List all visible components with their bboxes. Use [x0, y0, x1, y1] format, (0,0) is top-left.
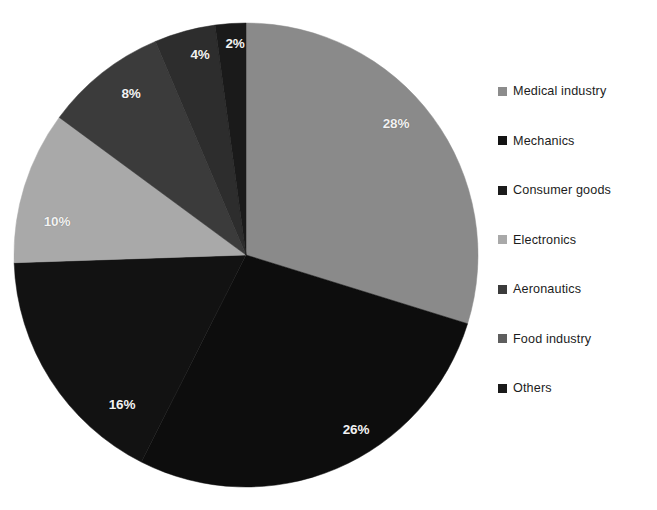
- legend-swatch-icon: [498, 136, 507, 145]
- pie-plot-area: 28%26%16%10%8%4%2%: [0, 0, 490, 510]
- legend-item-label: Mechanics: [513, 134, 575, 148]
- legend-item-label: Consumer goods: [513, 183, 611, 197]
- legend-item[interactable]: Aeronautics: [498, 282, 653, 296]
- legend-swatch-icon: [498, 186, 507, 195]
- legend-item[interactable]: Mechanics: [498, 134, 653, 148]
- legend-item[interactable]: Electronics: [498, 233, 653, 247]
- pie-chart-figure: 28%26%16%10%8%4%2% Medical industryMecha…: [0, 0, 657, 510]
- legend-swatch-icon: [498, 334, 507, 343]
- legend-swatch-icon: [498, 87, 507, 96]
- pie-svg: [0, 0, 490, 510]
- legend-item[interactable]: Consumer goods: [498, 183, 653, 197]
- legend-item[interactable]: Others: [498, 381, 653, 395]
- legend-swatch-icon: [498, 235, 507, 244]
- legend-swatch-icon: [498, 285, 507, 294]
- legend-item[interactable]: Medical industry: [498, 84, 653, 98]
- pie-slice-group: [14, 23, 478, 487]
- chart-legend: Medical industryMechanicsConsumer goodsE…: [498, 84, 653, 431]
- legend-item[interactable]: Food industry: [498, 332, 653, 346]
- legend-swatch-icon: [498, 384, 507, 393]
- legend-item-label: Electronics: [513, 233, 576, 247]
- legend-item-label: Medical industry: [513, 84, 606, 98]
- legend-item-label: Others: [513, 381, 552, 395]
- legend-item-label: Food industry: [513, 332, 591, 346]
- legend-item-label: Aeronautics: [513, 282, 581, 296]
